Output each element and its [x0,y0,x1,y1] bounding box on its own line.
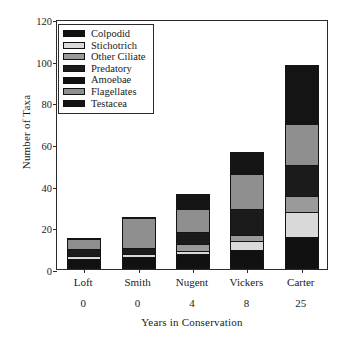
legend-swatch-icon [63,42,85,49]
legend-swatch-icon [63,53,85,60]
x-axis-tick-mark [139,269,140,273]
y-axis-tick-mark [53,271,57,272]
bar-segment-predatory [177,232,209,243]
legend-item-label: Other Ciliate [91,51,146,63]
y-axis-tick-mark [53,63,57,64]
stacked-bar-chart-figure: Number of Taxa 020406080100120 ColpodidS… [0,0,346,337]
bar-segment-stichotrich [231,241,263,249]
x-axis-years-label: 25 [266,297,336,309]
x-axis-tick-mark [193,269,194,273]
legend-item-label: Stichotrich [91,40,137,52]
bar-segment-testacea [231,153,263,173]
y-axis-tick-label: 120 [30,16,52,27]
legend-item-other-ciliate: Other Ciliate [63,51,146,63]
y-axis-tick-label: 80 [30,99,52,110]
bar-segment-colpodid [177,254,209,268]
bar-smith [122,217,156,269]
bar-loft [67,238,101,269]
legend-item-predatory: Predatory [63,63,146,75]
x-axis-site-label: Carter [266,276,336,288]
y-axis-tick-mark [53,188,57,189]
bar-segment-other-ciliate [286,196,318,213]
legend-swatch-icon [63,65,85,72]
bar-carter [285,65,319,269]
bar-segment-other-ciliate [177,244,209,251]
bar-segment-flagellates [123,218,155,248]
bar-segment-predatory [286,165,318,196]
legend-swatch-icon [63,100,85,107]
bar-segment-predatory [68,249,100,256]
legend-item-flagellates: Flagellates [63,86,146,98]
legend-item-label: Amoebae [91,74,131,86]
bar-segment-predatory [231,209,263,236]
legend-item-label: Colpodid [91,28,130,40]
bar-segment-colpodid [231,250,263,268]
y-axis-tick-mark [53,21,57,22]
legend-item-label: Flagellates [91,86,137,98]
legend-item-amoebae: Amoebae [63,74,146,86]
y-axis-tick-mark [53,104,57,105]
x-axis-group-carter: Carter25 [266,276,336,309]
legend-item-label: Testacea [91,98,127,110]
y-axis-tick-label: 20 [30,224,52,235]
legend-swatch-icon [63,88,85,95]
bar-segment-flagellates [231,174,263,209]
x-axis-tick-mark [84,269,85,273]
y-axis-tick-label: 0 [30,266,52,277]
legend-item-stichotrich: Stichotrich [63,40,146,52]
x-axis-title: Years in Conservation [56,316,328,328]
bar-segment-colpodid [123,257,155,268]
chart-legend: ColpodidStichotrichOther CiliatePredator… [58,24,154,114]
legend-item-testacea: Testacea [63,98,146,110]
legend-swatch-icon [63,77,85,84]
bar-segment-flagellates [177,209,209,232]
y-axis-tick-label: 60 [30,141,52,152]
y-axis-tick-label: 40 [30,182,52,193]
legend-swatch-icon [63,30,85,37]
bar-segment-flagellates [286,124,318,165]
bar-segment-stichotrich [286,212,318,237]
y-axis-tick-mark [53,146,57,147]
y-axis-tick-mark [53,229,57,230]
bar-vickers [230,152,264,269]
bar-segment-testacea [286,66,318,124]
bar-segment-colpodid [68,259,100,268]
bar-nugent [176,194,210,269]
y-axis-tick-label: 100 [30,57,52,68]
legend-item-colpodid: Colpodid [63,28,146,40]
x-axis-tick-mark [247,269,248,273]
bar-segment-testacea [177,195,209,209]
legend-item-label: Predatory [91,63,132,75]
bar-segment-colpodid [286,237,318,268]
x-axis-tick-mark [302,269,303,273]
bar-segment-flagellates [68,239,100,250]
